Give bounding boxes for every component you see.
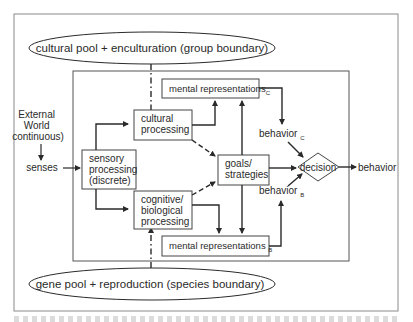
behavior-b-label: behavior B <box>259 185 304 198</box>
cognitive-to-mentalrep-b-arrow <box>192 205 219 233</box>
behavior-c-label: behavior C <box>259 128 305 141</box>
mentalrep-b-to-behavior-b-arrow <box>269 201 281 246</box>
cultural-to-mentalrep-c-arrow <box>192 101 215 125</box>
cognitive-to-goals-dashed-arrow <box>192 182 215 195</box>
senses-label: senses <box>26 162 58 173</box>
sensory-to-cognitive-arrow <box>96 189 128 209</box>
behavior-c-to-decision-arrow <box>288 142 303 157</box>
behavior-output-label: behavior <box>358 162 397 173</box>
gene-pool-ellipse: gene pool + reproduction (species bounda… <box>29 268 275 300</box>
diagram-canvas: cultural pool + enculturation (group bou… <box>0 0 413 322</box>
sensory-to-cultural-arrow <box>96 124 128 150</box>
gene-pool-label: gene pool + reproduction (species bounda… <box>36 278 265 290</box>
cultural-pool-label: cultural pool + enculturation (group bou… <box>36 42 269 54</box>
decision-label: decision <box>300 162 337 173</box>
cultural-pool-ellipse: cultural pool + enculturation (group bou… <box>29 32 275 64</box>
cropped-caption <box>14 316 399 322</box>
cognitive-processing-label: cognitive/ biological processing <box>141 194 189 227</box>
external-world-label: External World continuous) <box>12 109 64 142</box>
cultural-to-goals-dashed-arrow <box>192 140 215 156</box>
decision-diamond: decision <box>298 153 339 181</box>
